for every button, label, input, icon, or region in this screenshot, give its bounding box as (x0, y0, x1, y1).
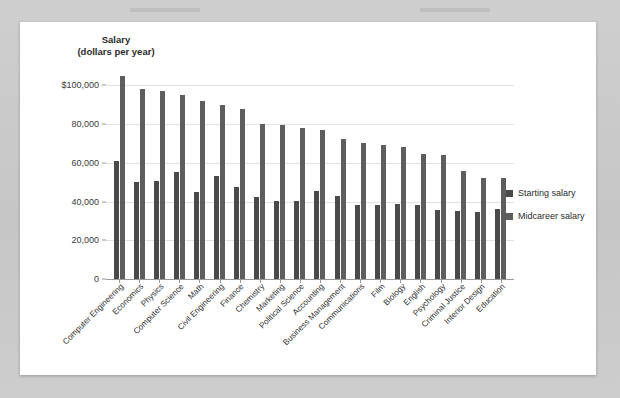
chart-legend: Starting salaryMidcareer salary (506, 188, 585, 234)
scan-artifact-left (130, 8, 200, 12)
bar-group[interactable] (431, 66, 451, 279)
y-axis-tick-label: 80,000 (71, 119, 99, 129)
x-axis-label-slot: Civil Engineering (209, 280, 229, 350)
bar-starting-salary[interactable] (274, 201, 279, 279)
bar-starting-salary[interactable] (455, 211, 460, 279)
y-axis-title-line-1: Salary (56, 34, 176, 46)
y-axis-title-line-2: (dollars per year) (56, 46, 176, 58)
bar-starting-salary[interactable] (335, 196, 340, 279)
x-axis-label-slot: Film (370, 280, 390, 350)
bar-group[interactable] (109, 66, 129, 279)
bar-midcareer-salary[interactable] (461, 171, 466, 279)
bar-starting-salary[interactable] (495, 209, 500, 279)
bar-group[interactable] (230, 66, 250, 279)
y-axis-tick-label: $100,000 (61, 80, 99, 90)
x-axis-label-slot: Interior Design (471, 280, 491, 350)
bar-group[interactable] (330, 66, 350, 279)
bar-groups (106, 66, 514, 279)
bar-group[interactable] (471, 66, 491, 279)
bar-chart: Salary (dollars per year) $100,00080,000… (20, 22, 596, 375)
bar-starting-salary[interactable] (475, 212, 480, 279)
bar-starting-salary[interactable] (154, 181, 159, 279)
legend-item[interactable]: Midcareer salary (506, 211, 585, 221)
x-axis-label-slot: Communications (350, 280, 370, 350)
chart-card: Salary (dollars per year) $100,00080,000… (20, 22, 596, 375)
bar-starting-salary[interactable] (194, 192, 199, 279)
bar-group[interactable] (250, 66, 270, 279)
bar-midcareer-salary[interactable] (220, 105, 225, 279)
bar-starting-salary[interactable] (415, 205, 420, 279)
bar-group[interactable] (189, 66, 209, 279)
x-axis-label-slot: Biology (390, 280, 410, 350)
bar-starting-salary[interactable] (174, 172, 179, 279)
bar-midcareer-salary[interactable] (421, 154, 426, 279)
y-axis-title: Salary (dollars per year) (56, 34, 176, 58)
scan-artifact-right (420, 8, 490, 12)
x-axis-tick-label: Film (369, 282, 386, 299)
bar-midcareer-salary[interactable] (441, 155, 446, 279)
bar-starting-salary[interactable] (254, 197, 259, 279)
legend-label: Midcareer salary (518, 211, 585, 221)
bar-midcareer-salary[interactable] (200, 101, 205, 279)
bar-group[interactable] (310, 66, 330, 279)
x-axis-label-slot: Education (491, 280, 511, 350)
bar-group[interactable] (290, 66, 310, 279)
bar-starting-salary[interactable] (375, 205, 380, 279)
bar-group[interactable] (209, 66, 229, 279)
bar-group[interactable] (270, 66, 290, 279)
bar-starting-salary[interactable] (435, 210, 440, 279)
bar-group[interactable] (129, 66, 149, 279)
y-axis-tick-label: 0 (94, 274, 99, 284)
bar-starting-salary[interactable] (134, 182, 139, 279)
legend-swatch-icon (506, 190, 513, 197)
bar-group[interactable] (491, 66, 511, 279)
bar-midcareer-salary[interactable] (260, 124, 265, 279)
bar-midcareer-salary[interactable] (160, 91, 165, 279)
y-axis-tick-label: 20,000 (71, 235, 99, 245)
bar-midcareer-salary[interactable] (140, 89, 145, 279)
bar-group[interactable] (451, 66, 471, 279)
bar-group[interactable] (410, 66, 430, 279)
bar-midcareer-salary[interactable] (240, 109, 245, 279)
bar-starting-salary[interactable] (234, 187, 239, 279)
plot-area: $100,00080,00060,00040,00020,0000 (106, 66, 514, 279)
bar-starting-salary[interactable] (355, 205, 360, 279)
bar-group[interactable] (149, 66, 169, 279)
bar-group[interactable] (390, 66, 410, 279)
bar-midcareer-salary[interactable] (381, 145, 386, 279)
bar-group[interactable] (350, 66, 370, 279)
legend-label: Starting salary (518, 188, 576, 198)
x-axis-labels: Computer EngineeringEconomicsPhysicsComp… (106, 280, 514, 350)
bar-group[interactable] (370, 66, 390, 279)
bar-midcareer-salary[interactable] (401, 147, 406, 279)
bar-midcareer-salary[interactable] (180, 95, 185, 279)
y-axis-tick-label: 60,000 (71, 158, 99, 168)
bar-midcareer-salary[interactable] (120, 76, 125, 279)
bar-starting-salary[interactable] (314, 191, 319, 279)
x-axis-label-slot: Computer Engineering (109, 280, 129, 350)
bar-midcareer-salary[interactable] (341, 139, 346, 279)
legend-swatch-icon (506, 213, 513, 220)
legend-item[interactable]: Starting salary (506, 188, 585, 198)
bar-midcareer-salary[interactable] (481, 178, 486, 279)
bar-midcareer-salary[interactable] (320, 130, 325, 279)
bar-group[interactable] (169, 66, 189, 279)
bar-midcareer-salary[interactable] (280, 125, 285, 279)
bar-starting-salary[interactable] (395, 204, 400, 279)
y-axis-tick-label: 40,000 (71, 197, 99, 207)
bar-starting-salary[interactable] (114, 161, 119, 279)
bar-midcareer-salary[interactable] (300, 128, 305, 279)
bar-starting-salary[interactable] (294, 201, 299, 279)
bar-starting-salary[interactable] (214, 176, 219, 279)
bar-midcareer-salary[interactable] (361, 143, 366, 279)
x-axis-label-slot: Finance (230, 280, 250, 350)
